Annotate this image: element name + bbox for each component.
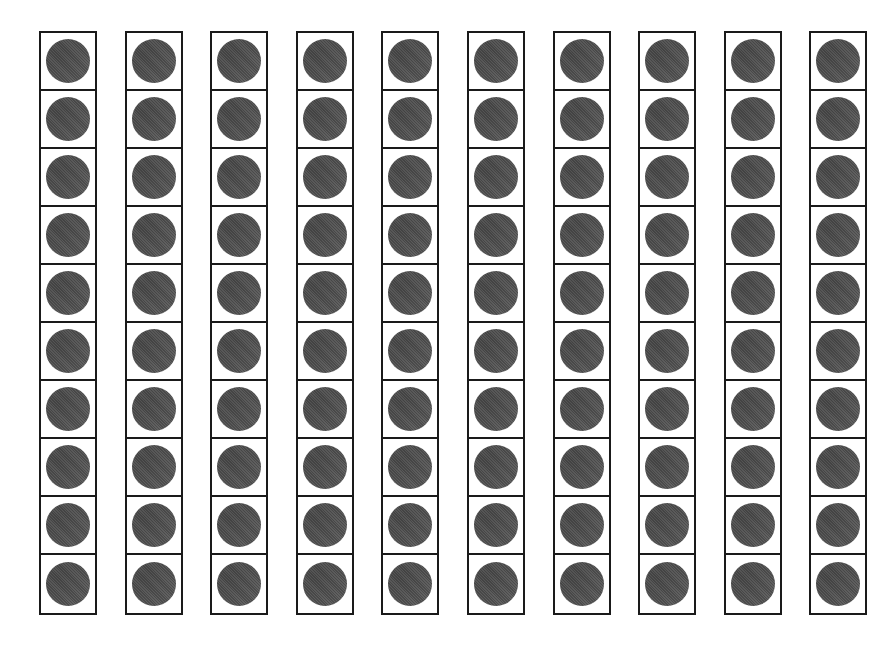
counter-dot-icon: [217, 155, 261, 199]
counter-dot-icon: [816, 213, 860, 257]
counter-dot-icon: [731, 213, 775, 257]
counter-dot-icon: [388, 213, 432, 257]
counter-dot-icon: [645, 562, 689, 606]
frame-cell: [298, 497, 352, 555]
counter-dot-icon: [731, 39, 775, 83]
frame-cell: [555, 91, 609, 149]
counter-dot-icon: [816, 445, 860, 489]
frame-cell: [555, 497, 609, 555]
counter-dot-icon: [816, 387, 860, 431]
frame-cell: [212, 323, 266, 381]
counter-dot-icon: [303, 155, 347, 199]
counter-dot-icon: [816, 39, 860, 83]
counter-dot-icon: [217, 213, 261, 257]
frame-cell: [640, 323, 694, 381]
counter-dot-icon: [645, 97, 689, 141]
counter-dot-icon: [560, 271, 604, 315]
counter-dot-icon: [731, 503, 775, 547]
frame-cell: [469, 91, 523, 149]
frame-cell: [127, 149, 181, 207]
counter-dot-icon: [560, 503, 604, 547]
counter-dot-icon: [645, 213, 689, 257]
frame-cell: [298, 555, 352, 613]
frame-cell: [127, 323, 181, 381]
frame-cell: [555, 439, 609, 497]
frame-cell: [383, 323, 437, 381]
counter-dot-icon: [816, 271, 860, 315]
ten-frame-10: [809, 31, 867, 615]
frame-cell: [469, 265, 523, 323]
frame-cell: [811, 149, 865, 207]
counter-dot-icon: [560, 155, 604, 199]
counter-dot-icon: [474, 562, 518, 606]
counter-dot-icon: [731, 97, 775, 141]
frame-cell: [640, 497, 694, 555]
counter-dot-icon: [731, 271, 775, 315]
counter-dot-icon: [816, 562, 860, 606]
frame-cell: [41, 497, 95, 555]
counter-dot-icon: [474, 97, 518, 141]
counter-dot-icon: [303, 271, 347, 315]
counter-dot-icon: [645, 271, 689, 315]
counter-dot-icon: [303, 39, 347, 83]
counter-dot-icon: [388, 445, 432, 489]
counter-dot-icon: [560, 329, 604, 373]
frame-cell: [469, 381, 523, 439]
counter-dot-icon: [132, 503, 176, 547]
counter-dot-icon: [132, 387, 176, 431]
counter-dot-icon: [303, 445, 347, 489]
counter-dot-icon: [560, 213, 604, 257]
counter-dot-icon: [731, 445, 775, 489]
frame-cell: [383, 555, 437, 613]
counter-dot-icon: [217, 562, 261, 606]
counter-dot-icon: [303, 329, 347, 373]
counter-dot-icon: [474, 155, 518, 199]
counter-dot-icon: [645, 503, 689, 547]
counter-dot-icon: [560, 562, 604, 606]
counter-dot-icon: [46, 387, 90, 431]
frame-cell: [726, 381, 780, 439]
frame-cell: [726, 497, 780, 555]
ten-frame-6: [467, 31, 525, 615]
frame-cell: [640, 149, 694, 207]
frame-cell: [555, 207, 609, 265]
counter-dot-icon: [132, 329, 176, 373]
counter-dot-icon: [816, 503, 860, 547]
frame-cell: [298, 265, 352, 323]
frame-cell: [469, 323, 523, 381]
counter-dot-icon: [731, 387, 775, 431]
frame-cell: [298, 33, 352, 91]
counter-dot-icon: [132, 271, 176, 315]
frame-cell: [726, 323, 780, 381]
ten-frame-2: [125, 31, 183, 615]
counter-dot-icon: [560, 387, 604, 431]
frame-cell: [640, 207, 694, 265]
counter-dot-icon: [132, 97, 176, 141]
frame-cell: [41, 265, 95, 323]
frame-cell: [555, 265, 609, 323]
frame-cell: [41, 439, 95, 497]
frame-cell: [127, 91, 181, 149]
counter-dot-icon: [46, 213, 90, 257]
counter-dot-icon: [46, 445, 90, 489]
frame-cell: [811, 91, 865, 149]
frame-cell: [41, 33, 95, 91]
frame-cell: [640, 265, 694, 323]
counter-dot-icon: [474, 271, 518, 315]
frame-cell: [640, 91, 694, 149]
ten-frame-9: [724, 31, 782, 615]
frame-cell: [811, 265, 865, 323]
frame-cell: [555, 33, 609, 91]
frame-cell: [469, 207, 523, 265]
frame-cell: [555, 381, 609, 439]
frame-cell: [298, 91, 352, 149]
frame-cell: [383, 33, 437, 91]
counter-dot-icon: [303, 97, 347, 141]
frame-cell: [298, 323, 352, 381]
counter-dot-icon: [132, 213, 176, 257]
counter-dot-icon: [46, 271, 90, 315]
frame-cell: [212, 91, 266, 149]
counter-dot-icon: [388, 155, 432, 199]
counter-dot-icon: [46, 155, 90, 199]
counter-dot-icon: [816, 97, 860, 141]
